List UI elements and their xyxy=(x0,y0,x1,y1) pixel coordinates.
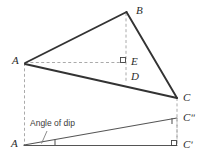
edge-a-to-c xyxy=(25,64,177,98)
right-angle-mark-c-prime xyxy=(172,141,177,146)
label-b: B xyxy=(136,5,143,16)
label-d: D xyxy=(131,71,139,82)
label-a-upper: A xyxy=(12,55,19,66)
label-c-double-prime: Cʺ xyxy=(183,112,195,123)
triangle-abc xyxy=(25,12,177,98)
right-angle-mark-e xyxy=(121,58,126,63)
label-e: E xyxy=(131,56,138,67)
edge-a-to-b xyxy=(25,12,127,63)
label-angle-of-dip: Angle of dip xyxy=(30,119,75,128)
angle-of-dip-diagram: A B E D C Cʺ A Cʹ Angle of dip xyxy=(0,0,201,161)
label-a-lower: A xyxy=(11,138,18,149)
diagram-canvas xyxy=(0,0,201,161)
label-c: C xyxy=(183,92,190,103)
label-c-prime: Cʹ xyxy=(183,139,193,150)
